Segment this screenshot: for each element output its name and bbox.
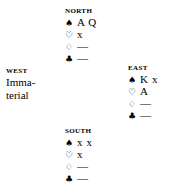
north-spade-row: ♠ A Q — [65, 16, 97, 28]
west-seat-label: WEST — [6, 66, 35, 76]
diamond-icon: ♢ — [65, 161, 77, 173]
south-club-holding: — — [77, 172, 88, 184]
south-spade-holding: x x — [77, 136, 93, 148]
club-icon: ♣ — [65, 173, 77, 185]
club-icon: ♣ — [128, 110, 140, 122]
heart-icon: ♡ — [128, 86, 140, 98]
spade-icon: ♠ — [128, 74, 140, 86]
north-hand: NORTH ♠ A Q ♡ x ♢ — ♣ — — [65, 6, 97, 64]
east-spade-row: ♠ K x — [128, 73, 158, 85]
south-club-row: ♣ — — [65, 172, 93, 184]
south-hand: SOUTH ♠ x x ♡ x ♢ — ♣ — — [65, 126, 93, 184]
east-seat-label: EAST — [128, 63, 158, 73]
heart-icon: ♡ — [65, 149, 77, 161]
west-hand: WEST Imma- terial — [6, 66, 35, 102]
north-diamond-holding: — — [77, 40, 88, 52]
club-icon: ♣ — [65, 53, 77, 65]
east-diamond-row: ♢ — — [128, 97, 158, 109]
east-heart-row: ♡ A — [128, 85, 158, 97]
north-heart-holding: x — [77, 28, 83, 40]
west-hand-note: Imma- terial — [6, 76, 35, 102]
east-spade-holding: K x — [140, 73, 158, 85]
north-club-holding: — — [77, 52, 88, 64]
south-spade-row: ♠ x x — [65, 136, 93, 148]
south-heart-holding: x — [77, 148, 83, 160]
east-club-row: ♣ — — [128, 109, 158, 121]
east-hand: EAST ♠ K x ♡ A ♢ — ♣ — — [128, 63, 158, 121]
diamond-icon: ♢ — [65, 41, 77, 53]
spade-icon: ♠ — [65, 137, 77, 149]
east-diamond-holding: — — [140, 97, 151, 109]
heart-icon: ♡ — [65, 29, 77, 41]
north-diamond-row: ♢ — — [65, 40, 97, 52]
east-heart-holding: A — [140, 85, 149, 97]
south-seat-label: SOUTH — [65, 126, 93, 136]
north-club-row: ♣ — — [65, 52, 97, 64]
south-diamond-row: ♢ — — [65, 160, 93, 172]
south-diamond-holding: — — [77, 160, 88, 172]
north-seat-label: NORTH — [65, 6, 97, 16]
north-spade-holding: A Q — [77, 16, 97, 28]
spade-icon: ♠ — [65, 17, 77, 29]
diamond-icon: ♢ — [128, 98, 140, 110]
bridge-deal-diagram: NORTH ♠ A Q ♡ x ♢ — ♣ — WEST Imma- teria… — [0, 0, 186, 192]
north-heart-row: ♡ x — [65, 28, 97, 40]
east-club-holding: — — [140, 109, 151, 121]
south-heart-row: ♡ x — [65, 148, 93, 160]
